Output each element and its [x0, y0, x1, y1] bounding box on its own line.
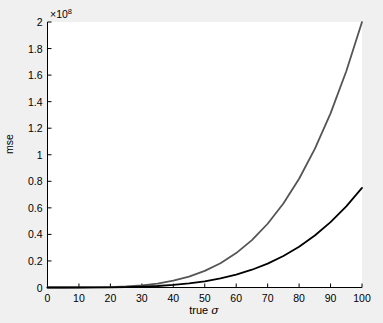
x-tick-label: 60	[230, 293, 242, 304]
y-axis-title: mse	[4, 134, 15, 154]
y-tick-label: 0.4	[28, 229, 43, 240]
x-tick-label: 70	[262, 293, 274, 304]
x-tick-label: 90	[325, 293, 337, 304]
y-tick-label: 2	[37, 17, 43, 28]
x-tick-label: 30	[136, 293, 148, 304]
y-tick-label: 1.8	[28, 43, 43, 54]
x-tick-label: 10	[73, 293, 85, 304]
exponent-power: 8	[68, 7, 72, 16]
y-tick-label: 0.8	[28, 176, 43, 187]
y-tick-label: 0	[37, 282, 43, 293]
x-tick-label: 100	[353, 293, 371, 304]
x-tick-label: 80	[293, 293, 305, 304]
y-tick-label: 1.2	[28, 123, 43, 134]
x-axis-title: true σ	[189, 305, 219, 316]
x-tick-label: 40	[167, 293, 179, 304]
sigma-symbol: σ	[211, 304, 219, 317]
y-tick-label: 1.6	[28, 70, 43, 81]
x-tick-label: 20	[105, 293, 117, 304]
figure-canvas: 00.20.40.60.811.21.41.61.82 010203040506…	[0, 0, 383, 323]
exponent-mantissa: ×10	[50, 8, 68, 20]
y-axis-exponent-label: ×108	[50, 9, 72, 20]
y-tick-label: 0.6	[28, 203, 43, 214]
x-axis-title-word: true	[189, 304, 208, 316]
x-tick-label: 50	[199, 293, 211, 304]
y-tick-label: 1	[37, 150, 43, 161]
x-tick-label: 0	[45, 293, 51, 304]
plot-area	[47, 22, 362, 287]
y-tick-label: 0.2	[28, 256, 43, 267]
y-tick-label: 1.4	[28, 96, 43, 107]
